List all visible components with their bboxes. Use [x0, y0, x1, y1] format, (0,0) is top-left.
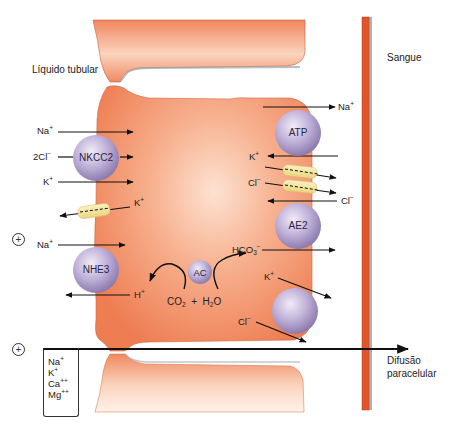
kcl-cotransporter	[272, 288, 318, 334]
apical-na2-label: Na+	[37, 240, 53, 250]
baso-na-label: Na+	[338, 102, 354, 112]
apical-h-label: H+	[134, 290, 145, 300]
baso-cl-in-label: Cl−	[341, 196, 354, 206]
reaction-equation: CO2 + H2O	[167, 297, 221, 307]
baso-hco3-label: HCO3−	[232, 245, 261, 255]
apical-na-label: Na+	[37, 126, 53, 136]
paracellular-positive-icon: +	[12, 343, 25, 356]
baso-k2-label: K+	[264, 272, 274, 282]
baso-k-label: K+	[249, 152, 259, 162]
blood-vessel-wall	[362, 17, 372, 410]
lumen-label: Líquido tubular	[32, 65, 98, 75]
paracellular-ions-box: Na+ K+ Ca++ Mg++	[43, 348, 79, 417]
nhe3-label: NHE3	[73, 264, 119, 275]
lumen-positive-icon: +	[12, 233, 25, 246]
baso-cl-channel-label: Cl−	[248, 178, 261, 188]
upper-cell	[93, 20, 305, 82]
baso-cl2-label: Cl−	[238, 317, 251, 327]
apical-k-label: K+	[43, 177, 53, 187]
ac-label: AC	[188, 267, 212, 278]
ion-na: Na+	[44, 356, 78, 367]
blood-label: Sangue	[387, 53, 421, 63]
lower-cell	[95, 354, 304, 412]
apical-k-out-label: K+	[134, 198, 144, 208]
apical-2cl-label: 2Cl−	[33, 152, 51, 162]
paracellular-label-2: paracelular	[387, 369, 436, 379]
paracellular-label-1: Difusão	[387, 356, 421, 366]
ae2-label: AE2	[275, 220, 321, 231]
ion-mg: Mg++	[44, 389, 78, 400]
atp-label: ATP	[275, 127, 321, 138]
nkcc2-label: NKCC2	[73, 152, 119, 163]
